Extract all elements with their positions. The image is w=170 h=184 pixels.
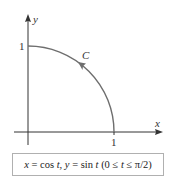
curve-label: C [82,50,89,61]
x-tick-label: 1 [111,137,117,148]
parametric-curve-diagram [0,0,170,150]
formula-eq-cos: = cos [29,159,57,170]
y-axis-label: y [33,14,38,25]
formula-eq-sin: = sin [70,159,96,170]
y-tick-label: 1 [19,41,25,52]
curve-direction-arrow-icon [78,62,86,70]
y-axis-arrow-icon [25,14,31,22]
x-axis-arrow-icon [155,129,163,135]
parametric-equation-box: x = cos t, y = sin t (0 ≤ t ≤ π/2) [12,153,164,176]
formula-range-open: (0 ≤ [99,159,121,170]
y-axis [25,14,31,145]
x-axis [14,129,163,135]
formula-range-close: ≤ π/2) [124,159,152,170]
x-axis-label: x [155,118,160,129]
curve-c [28,46,114,132]
